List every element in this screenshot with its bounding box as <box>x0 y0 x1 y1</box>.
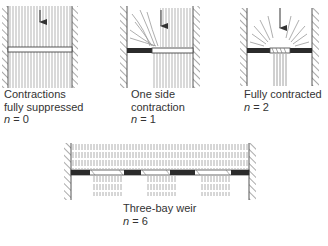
panel-fully-contracted <box>240 8 319 86</box>
n-symbol: n <box>131 113 137 125</box>
caption-line: fully suppressed <box>4 101 84 114</box>
n-value: = 2 <box>253 101 269 113</box>
caption-line: Contractions <box>4 88 84 101</box>
panel-one-side <box>120 6 200 88</box>
contraction-plate <box>127 48 152 53</box>
left-wall <box>2 6 8 88</box>
caption-three-bay: Three-bay weir n = 6 <box>123 202 196 227</box>
right-wall <box>312 8 319 86</box>
right-wall <box>249 143 256 200</box>
panel-three-bay <box>64 143 256 200</box>
caption-one-side: One side contraction n = 1 <box>131 88 185 126</box>
pier-2 <box>124 170 141 175</box>
n-value: = 6 <box>132 215 148 227</box>
right-wall <box>193 6 200 88</box>
n-value: = 0 <box>13 113 29 125</box>
caption-line: Fully contracted <box>244 88 322 101</box>
caption-line: Three-bay weir <box>123 202 196 215</box>
left-wall <box>120 6 127 88</box>
n-symbol: n <box>4 113 10 125</box>
pier-3 <box>170 170 195 175</box>
panel-suppressed <box>2 6 78 88</box>
caption-suppressed: Contractions fully suppressed n = 0 <box>4 88 84 126</box>
n-symbol: n <box>244 101 250 113</box>
weir-crest <box>152 48 193 53</box>
pier-1 <box>71 170 90 175</box>
n-symbol: n <box>123 215 129 227</box>
right-wall <box>72 6 78 88</box>
contraction-plate-right <box>290 48 312 53</box>
caption-fully-contracted: Fully contracted n = 2 <box>244 88 322 113</box>
nappe-stream <box>273 54 288 86</box>
weir-crest <box>8 47 72 52</box>
caption-line: One side <box>131 88 185 101</box>
left-wall <box>64 143 71 200</box>
pier-4 <box>231 170 249 175</box>
caption-line: contraction <box>131 101 185 114</box>
n-value: = 1 <box>140 113 156 125</box>
contraction-plate-left <box>247 48 270 53</box>
left-wall <box>240 8 247 86</box>
